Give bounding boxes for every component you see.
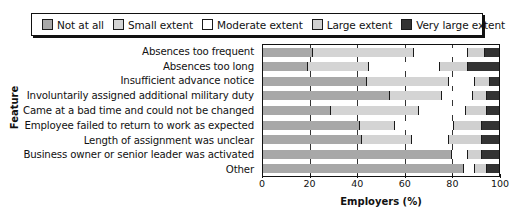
bar-segment [308,62,369,71]
legend-swatch-icon [42,19,53,30]
legend-item[interactable]: Small extent [113,19,193,31]
bar-segment [395,121,454,130]
stacked-bar-chart: Not at allSmall extentModerate extentLar… [0,0,517,224]
stacked-bar [263,91,499,100]
bar-segment [414,48,468,57]
x-tick-label: 0 [259,178,265,189]
bar-row[interactable] [263,162,499,177]
bar-row[interactable] [263,103,499,118]
bar-segment [464,164,476,173]
category-label: Length of assignment was unclear [38,133,258,148]
bars-container [263,45,499,176]
bar-segment [468,62,499,71]
bar-segment [449,135,482,144]
stacked-bar [263,164,499,173]
bar-segment [362,135,412,144]
bar-segment [482,150,499,159]
legend-item-label: Large extent [327,19,393,31]
chart-legend: Not at allSmall extentModerate extentLar… [31,13,483,36]
bar-segment [482,121,499,130]
legend-item[interactable]: Moderate extent [202,19,303,31]
stacked-bar [263,135,499,144]
stacked-bar [263,106,499,115]
bar-segment [442,91,473,100]
bar-segment [487,91,499,100]
x-axis-ticks: 020406080100 [262,178,500,192]
bar-segment [263,106,331,115]
legend-swatch-icon [113,19,124,30]
legend-item-label: Very large extent [416,19,505,31]
bar-row[interactable] [263,147,499,162]
category-label: Came at a bad time and could not be chan… [38,103,258,118]
category-label: Employee failed to return to work as exp… [38,118,258,133]
bar-segment [263,62,308,71]
bar-segment [369,62,440,71]
bar-segment [440,62,468,71]
bar-segment [263,48,313,57]
bar-segment [390,91,442,100]
bar-segment [490,77,499,86]
bar-segment [468,150,482,159]
plot-area [262,44,500,177]
x-axis-label: Employers (%) [262,196,500,207]
legend-swatch-icon [401,19,412,30]
bar-segment [487,164,499,173]
category-label-list: Absences too frequentAbsences too longIn… [38,44,258,177]
bar-row[interactable] [263,89,499,104]
category-label: Other [38,162,258,177]
bar-segment [482,135,499,144]
legend-item-label: Moderate extent [217,19,303,31]
x-tick-label: 100 [491,178,509,189]
bar-row[interactable] [263,74,499,89]
x-tick-label: 60 [399,178,411,189]
legend-item[interactable]: Large extent [312,19,393,31]
y-axis-label: Feature [9,78,20,138]
legend-item[interactable]: Not at all [42,19,104,31]
bar-segment [449,77,475,86]
bar-row[interactable] [263,45,499,60]
legend-item[interactable]: Very large extent [401,19,505,31]
stacked-bar [263,62,499,71]
bar-segment [452,150,469,159]
bar-segment [263,121,360,130]
bar-segment [466,106,487,115]
bar-segment [263,91,390,100]
legend-item-label: Small extent [128,19,193,31]
stacked-bar [263,121,499,130]
bar-segment [331,106,418,115]
bar-row[interactable] [263,118,499,133]
bar-segment [419,106,466,115]
category-label: Absences too long [38,59,258,74]
legend-item-label: Not at all [57,19,104,31]
bar-segment [313,48,414,57]
bar-segment [454,121,482,130]
bar-segment [473,91,487,100]
category-label: Business owner or senior leader was acti… [38,147,258,162]
bar-segment [412,135,450,144]
bar-segment [475,164,487,173]
x-tick-label: 80 [446,178,458,189]
bar-segment [475,77,489,86]
bar-segment [367,77,450,86]
legend-swatch-icon [202,19,213,30]
bar-row[interactable] [263,60,499,75]
bar-segment [263,164,464,173]
stacked-bar [263,48,499,57]
bar-segment [263,150,452,159]
x-tick-label: 40 [351,178,363,189]
category-label: Involuntarily assigned additional milita… [38,88,258,103]
bar-segment [263,77,367,86]
category-label: Insufficient advance notice [38,74,258,89]
x-tick-label: 20 [304,178,316,189]
bar-segment [360,121,395,130]
bar-segment [485,48,499,57]
bar-row[interactable] [263,132,499,147]
legend-swatch-icon [312,19,323,30]
bar-segment [468,48,485,57]
stacked-bar [263,150,499,159]
stacked-bar [263,77,499,86]
category-label: Absences too frequent [38,44,258,59]
bar-segment [263,135,362,144]
bar-segment [487,106,499,115]
